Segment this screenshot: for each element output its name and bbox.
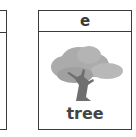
- tree-icon: [45, 41, 127, 103]
- letter-header: e: [39, 11, 131, 32]
- letter-card: e tree: [38, 10, 132, 130]
- word-label: tree: [39, 104, 131, 123]
- letter-card-header: [0, 11, 6, 33]
- letter-card-partial: [0, 10, 7, 130]
